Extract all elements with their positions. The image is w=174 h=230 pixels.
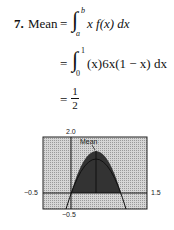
y-max-label: 2.0 xyxy=(66,128,76,135)
x-min-label: −0.5 xyxy=(24,189,38,196)
y-min-label: −0.5 xyxy=(62,211,76,218)
mean-annotation: Mean xyxy=(80,138,98,145)
x-max-label: 1.5 xyxy=(151,189,161,196)
